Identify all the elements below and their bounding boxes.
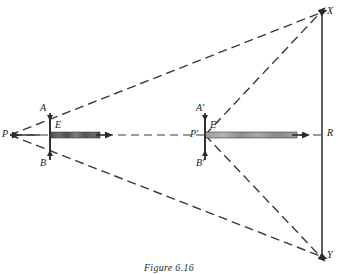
point-label-B-prime: B' [196, 158, 204, 168]
optics-ray-diagram [0, 0, 338, 274]
point-label-R: R [327, 128, 333, 138]
ray-Pp-to-X [205, 13, 320, 135]
point-label-E: E [55, 120, 61, 130]
point-label-A-prime: A' [196, 103, 204, 113]
point-label-P: P [2, 129, 8, 139]
point-label-P-prime: P' [190, 129, 198, 139]
point-label-A: A [40, 103, 46, 113]
point-label-E-prime: E' [210, 120, 218, 130]
point-label-B: B [40, 158, 46, 168]
ray-P-to-X [10, 13, 320, 135]
point-label-X: X [327, 6, 333, 16]
beam-left [50, 132, 100, 138]
figure-container: P A E B P' A' E' B' X R Y Figure 6.16 [0, 0, 338, 274]
ray-Pp-to-Y [205, 135, 320, 256]
beam-right [205, 132, 297, 138]
ray-P-to-Y [10, 135, 320, 256]
point-label-Y: Y [327, 250, 333, 260]
figure-caption: Figure 6.16 [0, 262, 338, 273]
